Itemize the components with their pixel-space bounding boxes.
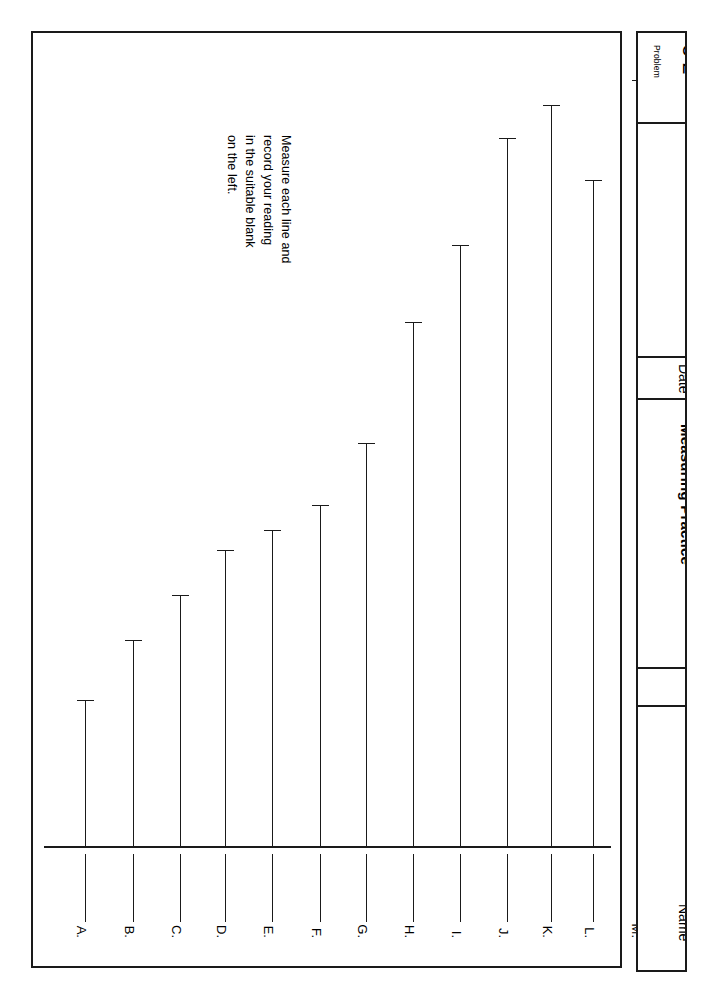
strip-blank-cell-lower	[638, 667, 685, 705]
measure-line-b	[133, 641, 134, 846]
answer-blank-label: D.	[212, 904, 230, 938]
measure-lines-group	[33, 33, 620, 846]
measure-line-cap-tick	[264, 530, 281, 531]
measure-line-cap-tick	[125, 640, 142, 641]
name-cell[interactable]: Name	[638, 705, 685, 970]
measure-line-stem	[551, 106, 552, 846]
answer-blank-b[interactable]: B.	[112, 848, 156, 958]
measure-line-h	[413, 323, 414, 846]
measure-line-stem	[460, 246, 461, 846]
answer-blank-label: I.	[447, 904, 465, 938]
subject-cell: Measuring Practice	[638, 398, 685, 667]
measure-line-stem	[180, 596, 181, 846]
measure-line-cap-tick	[585, 180, 602, 181]
problem-kicker-label: Problem	[652, 45, 662, 78]
measure-line-stem	[320, 506, 321, 846]
measure-line-d	[225, 551, 226, 846]
measure-line-cap-tick	[452, 245, 469, 246]
measure-line-e	[272, 531, 273, 846]
answer-blank-i[interactable]: I.	[439, 848, 483, 958]
measure-line-stem	[85, 701, 86, 846]
answer-blank-label: B.	[120, 904, 138, 938]
answer-blank-d[interactable]: D.	[204, 848, 248, 958]
answer-blank-e[interactable]: E.	[251, 848, 295, 958]
measure-line-stem	[225, 551, 226, 846]
measure-line-cap-tick	[172, 595, 189, 596]
answer-blank-h[interactable]: H.	[392, 848, 436, 958]
measure-line-stem	[507, 139, 508, 846]
answer-blank-f[interactable]: F.	[299, 848, 343, 958]
measure-line-cap-tick	[543, 105, 560, 106]
measure-line-stem	[366, 444, 367, 846]
answer-blank-a[interactable]: A.	[64, 848, 108, 958]
answer-blank-label: F.	[307, 904, 325, 938]
measure-line-j	[507, 139, 508, 846]
measure-line-stem	[593, 181, 594, 846]
work-area: Measure each line and record your readin…	[31, 31, 622, 968]
answer-blank-label: H.	[400, 904, 418, 938]
problem-cell: Problem 5-2	[638, 33, 685, 122]
measure-line-stem	[272, 531, 273, 846]
subject-label: Measuring Practice	[678, 424, 685, 565]
measure-line-i	[460, 246, 461, 846]
answer-blank-c[interactable]: C.	[159, 848, 203, 958]
answer-blanks-group: A.B.C.D.E.F.G.H.I.J.K.L.M.	[33, 848, 620, 968]
answer-blank-label: E.	[259, 904, 277, 938]
measure-line-l	[593, 181, 594, 846]
measure-line-cap-tick	[77, 700, 94, 701]
date-cell[interactable]: Date	[638, 356, 685, 398]
answer-blank-label: J.	[494, 904, 512, 938]
answer-blank-label: A.	[72, 904, 90, 938]
measure-line-c	[180, 596, 181, 846]
answer-blank-l[interactable]: L.	[572, 848, 616, 958]
name-label: Name	[676, 904, 685, 941]
answer-blank-j[interactable]: J.	[486, 848, 530, 958]
measure-line-stem	[413, 323, 414, 846]
answer-blank-label: K.	[538, 904, 556, 938]
answer-blank-label: C.	[167, 904, 185, 938]
answer-blank-k[interactable]: K.	[530, 848, 574, 958]
answer-blank-label: L.	[580, 904, 598, 938]
measure-line-cap-tick	[499, 138, 516, 139]
measure-line-cap-tick	[217, 550, 234, 551]
answer-blank-g[interactable]: G.	[345, 848, 389, 958]
measure-line-stem	[133, 641, 134, 846]
measure-line-a	[85, 701, 86, 846]
title-strip: Problem 5-2 Date Measuring Practice Name	[636, 31, 687, 972]
measure-line-cap-tick	[405, 322, 422, 323]
measure-line-cap-tick	[358, 443, 375, 444]
measure-line-cap-tick	[312, 505, 329, 506]
problem-number: 5-2	[678, 45, 685, 74]
measure-line-g	[366, 444, 367, 846]
date-label: Date	[676, 364, 685, 394]
strip-blank-cell-upper	[638, 122, 685, 356]
measure-line-f	[320, 506, 321, 846]
measure-line-k	[551, 106, 552, 846]
answer-blank-label: G.	[353, 904, 371, 938]
worksheet-page: Measure each line and record your readin…	[0, 0, 710, 988]
